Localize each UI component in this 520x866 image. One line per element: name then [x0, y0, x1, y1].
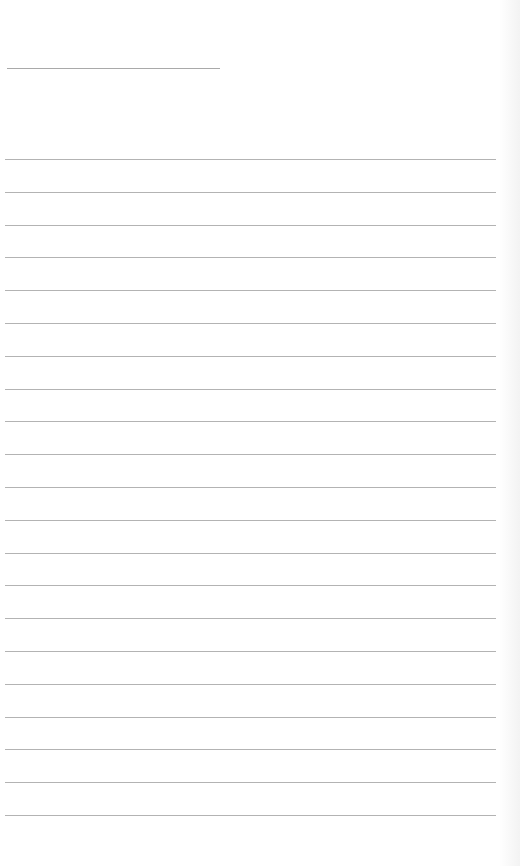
title-line [7, 68, 220, 69]
ruled-line [5, 618, 496, 619]
ruled-line [5, 782, 496, 783]
ruled-line [5, 323, 496, 324]
ruled-line [5, 553, 496, 554]
ruled-line [5, 389, 496, 390]
ruled-line [5, 520, 496, 521]
ruled-line [5, 651, 496, 652]
ruled-line [5, 225, 496, 226]
ruled-line [5, 717, 496, 718]
ruled-line [5, 684, 496, 685]
ruled-line [5, 454, 496, 455]
ruled-line [5, 421, 496, 422]
ruled-line [5, 192, 496, 193]
ruled-line [5, 815, 496, 816]
ruled-line [5, 356, 496, 357]
ruled-line [5, 585, 496, 586]
ruled-line [5, 749, 496, 750]
lined-paper-page [0, 0, 520, 866]
ruled-line [5, 257, 496, 258]
ruled-line [5, 290, 496, 291]
ruled-line [5, 487, 496, 488]
ruled-line [5, 159, 496, 160]
